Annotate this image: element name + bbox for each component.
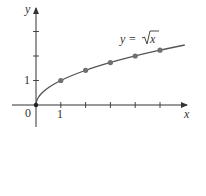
data-point [34,103,38,107]
sqrt-chart: y x 0 1 1 y = x [0,0,206,196]
x-tick-label-1: 1 [57,107,63,121]
data-point [157,48,162,53]
function-label: y = x [119,31,159,46]
data-point [133,53,138,58]
data-points [34,48,163,108]
svg-text:x: x [149,32,156,46]
x-axis-label: x [183,107,190,121]
sqrt-curve [36,45,185,105]
svg-text:y =: y = [119,32,136,46]
y-tick-label-1: 1 [24,73,30,87]
data-point [58,78,63,83]
axes [12,8,187,127]
origin-label: 0 [25,106,31,120]
y-axis-label: y [24,2,31,16]
data-point [108,60,113,65]
data-point [83,68,88,73]
